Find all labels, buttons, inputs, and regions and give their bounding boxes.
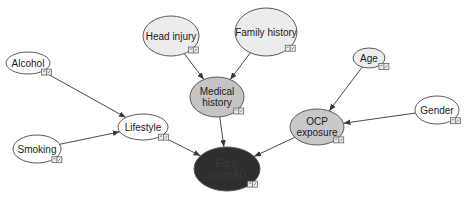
monitor-toggle-icon[interactable] [451, 118, 461, 124]
monitor-toggle-icon[interactable] [42, 69, 52, 75]
edge-age-to-ocp-exposure [329, 67, 362, 111]
node-label: Gender [420, 105, 454, 116]
nodes-layer: AlcoholHead injuryFamily historyMedicalh… [6, 8, 461, 191]
node-family-history[interactable]: Family history [235, 8, 297, 56]
edge-medical-history-to-early-onset-ad [220, 117, 224, 147]
node-gender[interactable]: Gender [415, 96, 461, 124]
node-smoking[interactable]: Smoking [13, 135, 62, 163]
node-label: Age [360, 53, 378, 64]
node-label: Lifestyle [125, 122, 162, 133]
node-label: Medical [200, 86, 234, 97]
node-label: history [202, 97, 231, 108]
monitor-toggle-icon[interactable] [159, 134, 169, 140]
monitor-toggle-icon[interactable] [52, 157, 62, 163]
node-label: Alcohol [12, 58, 45, 69]
edge-head-injury-to-medical-history [184, 54, 204, 80]
monitor-toggle-icon[interactable] [379, 64, 389, 70]
node-ocp-exposure[interactable]: OCPexposure [290, 109, 344, 145]
node-label: onsetAD [208, 169, 246, 180]
edge-family-history-to-medical-history [230, 53, 250, 80]
edge-gender-to-ocp-exposure [343, 113, 415, 123]
node-alcohol[interactable]: Alcohol [6, 52, 52, 75]
monitor-toggle-icon[interactable] [247, 181, 257, 187]
node-head-injury[interactable]: Head injury [143, 16, 199, 56]
diagram-canvas: AlcoholHead injuryFamily historyMedicalh… [0, 0, 465, 197]
edge-ocp-exposure-to-early-onset-ad [254, 137, 295, 156]
monitor-toggle-icon[interactable] [188, 47, 198, 53]
node-label: Smoking [18, 144, 57, 155]
node-age[interactable]: Age [353, 48, 389, 70]
node-label: OCP [306, 116, 328, 127]
monitor-toggle-icon[interactable] [234, 108, 244, 114]
node-label: Family history [235, 27, 297, 38]
edge-alcohol-to-lifestyle [43, 71, 126, 117]
node-label: Head injury [146, 31, 197, 42]
bayesian-network-diagram: AlcoholHead injuryFamily historyMedicalh… [0, 0, 465, 197]
node-medical-history[interactable]: Medicalhistory [190, 77, 244, 117]
monitor-toggle-icon[interactable] [334, 137, 344, 143]
node-label: Early [216, 158, 239, 169]
node-lifestyle[interactable]: Lifestyle [118, 114, 169, 140]
edge-smoking-to-lifestyle [60, 132, 120, 144]
node-early-onset-ad[interactable]: EarlyonsetAD [194, 147, 260, 191]
monitor-toggle-icon[interactable] [285, 45, 295, 51]
node-label: exposure [296, 127, 338, 138]
